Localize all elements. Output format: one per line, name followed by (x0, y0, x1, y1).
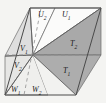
label-w2-base: W (32, 85, 39, 94)
label-u1: U1 (62, 11, 71, 21)
label-w1-base: W (11, 85, 18, 94)
label-v1-sub: 1 (25, 49, 28, 55)
label-t2-sub: 2 (74, 44, 77, 50)
label-v2-sub: 2 (19, 66, 22, 72)
label-v2: V2 (14, 62, 22, 72)
label-u1-sub: 1 (68, 15, 71, 21)
label-t1-sub: 1 (67, 71, 70, 77)
label-t1: T1 (63, 67, 70, 77)
label-w1-sub: 1 (18, 90, 21, 96)
label-t2: T2 (70, 40, 77, 50)
label-u2-sub: 2 (44, 15, 47, 21)
label-w1: W1 (11, 86, 20, 96)
label-w2: W2 (32, 86, 41, 96)
label-u2: U2 (38, 11, 47, 21)
geometric-figure: U2 U1 T2 T1 V1 V2 W1 W2 (0, 0, 106, 103)
region-v1-fill (5, 8, 33, 56)
label-w2-sub: 2 (39, 90, 42, 96)
label-v1: V1 (20, 45, 28, 55)
